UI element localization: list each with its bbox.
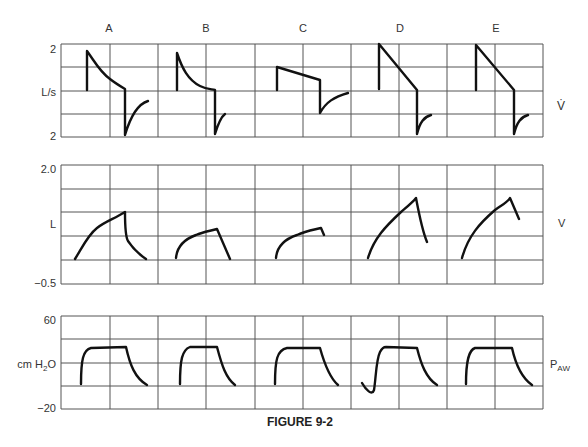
column-label-e: E [492,22,499,34]
flow-panel: 2 L/s 2 V̇ [41,43,565,142]
pressure-y-bottom-label: −20 [37,402,56,414]
pressure-trace-b [180,347,235,385]
pressure-trace-c [275,348,338,385]
figure-caption: FIGURE 9-2 [267,415,333,429]
flow-trace-a [87,51,148,135]
figure-canvas: A B C D E 2 L/s 2 V̇ [0,0,588,447]
pressure-grid [61,316,543,409]
pressure-right-label: PAW [550,358,570,373]
pressure-panel: 60 cm H2O −20 PAW [17,314,570,414]
volume-trace-c [276,228,324,258]
column-labels: A B C D E [105,22,499,34]
pressure-trace-a [81,347,147,385]
flow-right-label: V̇ [557,99,565,113]
volume-trace-e [462,198,519,258]
flow-y-unit-label: L/s [41,86,56,98]
flow-y-bottom-label: 2 [50,130,56,142]
column-label-b: B [202,22,209,34]
pressure-y-unit-label: cm H2O [17,358,56,373]
volume-right-label: V [558,217,566,229]
column-label-d: D [396,22,404,34]
volume-y-bottom-label: −0.5 [34,277,56,289]
pressure-y-top-label: 60 [44,314,56,326]
column-label-c: C [299,22,307,34]
volume-panel: 2.0 L −0.5 V [34,163,566,289]
pressure-trace-e [466,348,532,385]
column-label-a: A [105,22,113,34]
volume-y-unit-label: L [50,218,56,230]
volume-trace-d [368,198,427,258]
flow-trace-c [277,67,348,113]
volume-grid [61,165,543,284]
volume-y-top-label: 2.0 [41,163,56,175]
flow-trace-b [177,53,225,134]
flow-trace-d [379,44,431,134]
flow-trace-e [476,45,528,134]
volume-trace-b [176,229,230,259]
flow-grid [61,44,543,137]
flow-y-top-label: 2 [50,43,56,55]
